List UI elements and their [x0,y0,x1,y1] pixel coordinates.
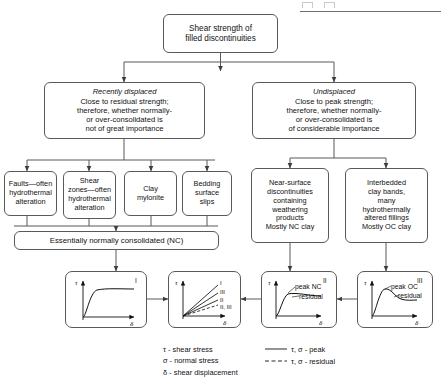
chart-panel-1: τ δ I [65,271,147,328]
node-shear-zones: Shear zones—often hydrothermal alteratio… [63,171,116,219]
item-line: Mostly NC clay [266,223,315,232]
legend-row: δ - shear displacement [163,367,238,378]
node-essentially-normally-consolidated: Essentially normally consolidated (NC) [14,231,219,250]
legend-curves: τ, σ - peak τ, σ - residual [265,344,335,368]
svg-text:τ: τ [75,279,78,287]
item-line: mylonite [137,194,164,203]
branch-heading: Recently displaced [93,87,157,96]
branch-line: or over-consolidated is [86,115,162,124]
legend-label-residual: τ, σ - residual [291,357,335,366]
chart-panel-2: τ δ I III II II, III [168,271,241,328]
svg-text:peak OC: peak OC [391,283,418,291]
node-clay-mylonite: Clay mylonite [124,171,177,216]
legend-symbols: τ - shear stress σ - normal stress δ - s… [163,344,238,378]
svg-text:τ: τ [175,279,178,287]
svg-text:τ: τ [364,279,367,287]
legend-row: τ - shear stress [163,344,238,355]
item-line: Mostly OC clay [362,223,411,232]
svg-text:δ: δ [130,320,134,327]
node-shear-strength-title: Shear strength of filled discontinuities [163,14,278,53]
consolidation-label: Essentially normally consolidated (NC) [50,236,183,246]
item-line: alteration [74,204,104,213]
item-line: slips [200,198,215,207]
node-undisplaced: Undisplaced Close to peak strength; ther… [252,82,416,139]
chart-panel-3: τ δ II peak NC residual [261,271,337,328]
node-near-surface-discontinuities: Near-surface discontinuities containing … [251,168,329,243]
svg-text:II: II [220,297,224,303]
flowchart-diagram: Shear strength of filled discontinuities… [0,0,441,389]
svg-text:II: II [323,277,327,284]
svg-text:III: III [220,289,225,295]
branch-line: therefore, whether normally- [77,106,172,115]
title-line: filled discontinuities [185,34,256,44]
node-faults: Faults—often hydrothermal alteration [4,171,57,216]
svg-text:I: I [135,277,137,284]
svg-text:I: I [220,280,222,286]
branch-heading: Undisplaced [313,87,355,96]
branch-line: Close to peak strength; [295,97,373,106]
svg-text:δ: δ [319,319,323,327]
svg-text:peak NC: peak NC [295,283,322,291]
branch-line: not of great importance [85,124,163,133]
branch-line: Close to residual strength; [80,97,168,106]
chart-panel-4: τ δ III peak OC residual [357,271,433,328]
svg-text:residual: residual [398,292,422,299]
node-bedding-surface-slips: Bedding surface slips [182,171,232,216]
svg-text:τ: τ [268,279,271,287]
branch-line: or over-consolidated is [296,115,372,124]
node-interbedded-clay-bands: Interbedded clay bands, many hydrotherma… [345,168,428,243]
dashed-line-sample [265,356,291,367]
title-line: Shear strength of [189,24,252,34]
legend-row: σ - normal stress [163,355,238,366]
solid-line-sample [265,344,291,355]
svg-text:residual: residual [299,293,323,300]
svg-text:δ: δ [223,319,227,327]
svg-text:III: III [417,277,423,284]
item-line: alteration [15,198,45,207]
branch-line: of considerable importance [288,124,379,133]
branch-line: therefore, whether normally- [287,106,382,115]
node-recently-displaced: Recently displaced Close to residual str… [44,82,205,139]
legend-row-peak: τ, σ - peak [265,344,335,356]
svg-text:II, III: II, III [220,304,232,310]
svg-text:δ: δ [415,319,419,327]
legend-row-residual: τ, σ - residual [265,356,335,368]
legend-label-peak: τ, σ - peak [291,345,325,354]
